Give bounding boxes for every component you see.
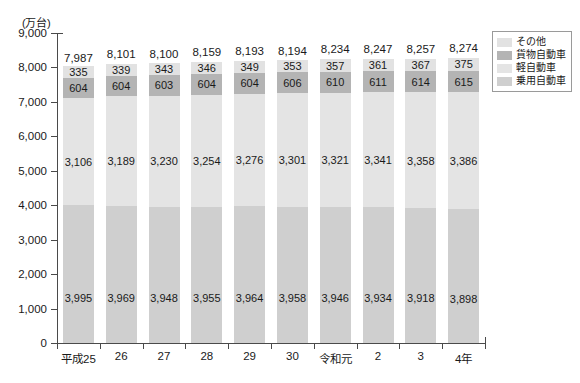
legend-swatch-passenger xyxy=(497,77,512,86)
bar-column: 3,9953,1066043357,987 xyxy=(63,33,94,343)
bar-segment xyxy=(320,93,351,207)
bar-segment-value-label: 3,934 xyxy=(363,293,394,304)
y-axis-tick-label: 8,000 xyxy=(18,62,47,73)
y-axis-tick xyxy=(51,205,57,206)
bar-column: 3,9463,3216103578,234 xyxy=(320,33,351,343)
bar-segment-value-label: 339 xyxy=(106,65,137,76)
x-axis-tick xyxy=(357,344,358,349)
bar-segment-value-label: 3,969 xyxy=(106,293,137,304)
legend-item-freight: 貨物自動車 xyxy=(497,49,568,61)
bar-column: 3,9183,3586143678,257 xyxy=(405,33,436,343)
bar-segment xyxy=(448,209,479,343)
bar-segment-value-label: 357 xyxy=(320,61,351,72)
y-axis-tick xyxy=(51,67,57,68)
bar-segment-value-label: 3,995 xyxy=(63,293,94,304)
bar-column: 3,9343,3416113618,247 xyxy=(363,33,394,343)
x-axis-right-cap xyxy=(485,337,486,344)
bar-segment-value-label: 335 xyxy=(63,67,94,78)
bar-column: 3,9553,2546043468,159 xyxy=(191,33,222,343)
bar-segment-value-label: 361 xyxy=(363,60,394,71)
y-axis-line xyxy=(57,33,58,344)
x-axis-tick xyxy=(100,344,101,349)
y-axis-tick-label: 2,000 xyxy=(18,269,47,280)
bar-segment-value-label: 367 xyxy=(405,60,436,71)
y-axis-tick-label: 3,000 xyxy=(18,235,47,246)
x-axis-tick-label: 令和元 xyxy=(314,350,357,366)
bar-column: 3,9583,3016063538,194 xyxy=(277,33,308,343)
bar-segment xyxy=(234,94,265,207)
x-axis-tick-label: 3 xyxy=(399,350,442,362)
bar-segment-value-label: 3,958 xyxy=(277,293,308,304)
y-axis-tick xyxy=(51,102,57,103)
y-axis-tick xyxy=(51,171,57,172)
bar-segment xyxy=(363,92,394,207)
y-axis-tick-label: 9,000 xyxy=(18,28,47,39)
bar-segment xyxy=(405,92,436,208)
y-axis-tick xyxy=(51,274,57,275)
x-axis-tick xyxy=(485,344,486,349)
bar-segment-value-label: 375 xyxy=(448,59,479,70)
bar-total-label: 8,274 xyxy=(448,43,479,54)
bar-column: 3,9693,1896043398,101 xyxy=(106,33,137,343)
legend-item-other: その他 xyxy=(497,36,568,48)
y-axis-tick xyxy=(51,136,57,137)
bar-segment-value-label: 3,341 xyxy=(363,155,394,166)
bar-total-label: 8,194 xyxy=(277,46,308,57)
bar-segment-value-label: 603 xyxy=(149,80,180,91)
x-axis-tick-label: 26 xyxy=(100,350,143,362)
x-axis-tick xyxy=(399,344,400,349)
legend-label-passenger: 乗用自動車 xyxy=(516,76,566,86)
y-axis-tick-label: 1,000 xyxy=(18,304,47,315)
bar-segment-value-label: 611 xyxy=(363,77,394,88)
bar-segment-value-label: 615 xyxy=(448,77,479,88)
bar-segment-value-label: 3,948 xyxy=(149,293,180,304)
x-axis-tick xyxy=(143,344,144,349)
bar-column: 3,9643,2766043498,193 xyxy=(234,33,265,343)
x-axis-tick xyxy=(185,344,186,349)
legend-label-light: 軽自動車 xyxy=(516,63,556,73)
stacked-bar-chart: (万台) 9,0008,0007,0006,0005,0004,0003,000… xyxy=(0,0,580,383)
bar-segment-value-label: 604 xyxy=(234,78,265,89)
bar-segment-value-label: 349 xyxy=(234,62,265,73)
x-axis-tick-label: 2 xyxy=(357,350,400,362)
x-axis-tick-label: 30 xyxy=(271,350,314,362)
bar-segment-value-label: 604 xyxy=(106,81,137,92)
x-axis-tick-label: 4年 xyxy=(442,350,485,366)
legend-item-passenger: 乗用自動車 xyxy=(497,75,568,87)
bar-segment-value-label: 3,946 xyxy=(320,293,351,304)
bar-segment-value-label: 3,254 xyxy=(191,156,222,167)
legend-swatch-other xyxy=(497,38,512,47)
bar-segment xyxy=(106,206,137,343)
bar-total-label: 8,257 xyxy=(405,44,436,55)
bar-segment-value-label: 3,386 xyxy=(448,156,479,167)
bar-segment-value-label: 353 xyxy=(277,61,308,72)
bar-segment xyxy=(149,96,180,207)
bar-segment xyxy=(106,96,137,206)
x-axis-tick xyxy=(314,344,315,349)
bar-total-label: 8,100 xyxy=(149,49,180,60)
y-axis-tick xyxy=(51,309,57,310)
bar-total-label: 8,247 xyxy=(363,44,394,55)
bar-segment xyxy=(363,207,394,343)
bar-segment-value-label: 604 xyxy=(191,79,222,90)
bar-segment-value-label: 346 xyxy=(191,63,222,74)
bar-segment-value-label: 3,964 xyxy=(234,293,265,304)
bar-column: 3,9483,2306033438,100 xyxy=(149,33,180,343)
bar-segment-value-label: 614 xyxy=(405,77,436,88)
bar-segment-value-label: 604 xyxy=(63,83,94,94)
y-axis-tick-label: 6,000 xyxy=(18,131,47,142)
bar-segment-value-label: 3,230 xyxy=(149,156,180,167)
y-axis-tick xyxy=(51,33,57,34)
legend-swatch-light xyxy=(497,64,512,73)
bar-segment xyxy=(63,98,94,205)
bar-column: 3,8983,3866153758,274 xyxy=(448,33,479,343)
bar-segment xyxy=(405,208,436,343)
bar-segment-value-label: 3,918 xyxy=(405,293,436,304)
y-axis-tick-label: 4,000 xyxy=(18,200,47,211)
bar-segment-value-label: 3,898 xyxy=(448,294,479,305)
bar-segment-value-label: 3,189 xyxy=(106,156,137,167)
bar-segment-value-label: 343 xyxy=(149,64,180,75)
bar-segment-value-label: 3,358 xyxy=(405,156,436,167)
x-axis-tick-label: 27 xyxy=(143,350,186,362)
y-axis-tick-label: 5,000 xyxy=(18,166,47,177)
